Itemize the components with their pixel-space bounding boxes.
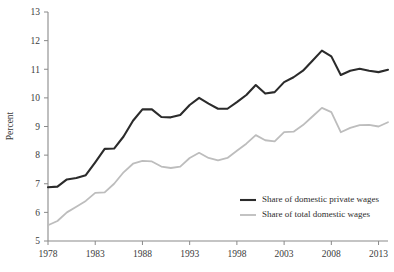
axes xyxy=(48,12,388,241)
x-tick-label: 1998 xyxy=(227,249,246,259)
y-tick-label: 10 xyxy=(31,93,41,103)
line-chart: 5678910111213 19781983198819931998200320… xyxy=(0,0,394,272)
x-tick-label: 2003 xyxy=(275,249,294,259)
x-tick-label: 1978 xyxy=(39,249,58,259)
series-line-0 xyxy=(48,51,388,188)
x-tick-label: 1983 xyxy=(86,249,105,259)
y-tick-label: 13 xyxy=(31,7,41,17)
y-axis-label: Percent xyxy=(5,111,15,140)
y-axis-ticks: 5678910111213 xyxy=(31,7,49,246)
legend-label-0: Share of domestic private wages xyxy=(262,194,379,204)
y-tick-label: 6 xyxy=(35,208,40,218)
x-tick-label: 1993 xyxy=(180,249,199,259)
y-tick-label: 5 xyxy=(35,236,40,246)
y-tick-label: 8 xyxy=(35,150,40,160)
chart-container: 5678910111213 19781983198819931998200320… xyxy=(0,0,394,272)
chart-legend: Share of domestic private wagesShare of … xyxy=(240,194,379,219)
y-tick-label: 7 xyxy=(35,179,40,189)
legend-label-1: Share of total domestic wages xyxy=(262,209,370,219)
x-axis-ticks: 19781983198819931998200320082013 xyxy=(39,241,389,259)
series-line-1 xyxy=(48,108,388,225)
x-tick-label: 1988 xyxy=(133,249,152,259)
y-tick-label: 9 xyxy=(35,122,40,132)
x-tick-label: 2013 xyxy=(369,249,388,259)
y-tick-label: 12 xyxy=(31,36,41,46)
x-tick-label: 2008 xyxy=(322,249,341,259)
y-tick-label: 11 xyxy=(31,65,40,75)
